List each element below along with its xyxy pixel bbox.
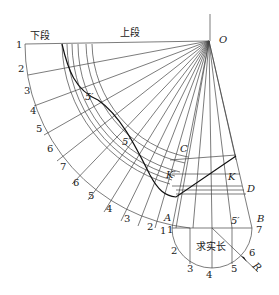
- left-number: 4: [30, 106, 36, 116]
- left-number: 1: [16, 40, 22, 50]
- semicircle-number: 1: [167, 225, 173, 235]
- apex-label: O: [219, 35, 227, 45]
- point-5-prime-label: 5′: [85, 92, 94, 102]
- left-number: 3: [24, 86, 30, 96]
- left-number: 5: [36, 124, 42, 134]
- left-number: 2: [18, 64, 24, 74]
- development-curve: [62, 44, 236, 197]
- semicircle-number: 4: [206, 270, 212, 280]
- point-a-label: A: [164, 213, 171, 223]
- lower-arc-number: 2: [147, 222, 153, 232]
- lower-arc-number: 6: [73, 178, 79, 188]
- semicircle-number: 3: [187, 264, 193, 274]
- semicircle-number: 5: [231, 264, 237, 274]
- lower-arc-number: 4: [106, 204, 112, 214]
- outer-arc: [25, 44, 190, 228]
- semicircle-number: 6: [249, 248, 255, 258]
- left-number: 6: [47, 144, 53, 154]
- lower-arc-number: 3: [124, 214, 130, 224]
- point-d-label: D: [247, 184, 255, 194]
- point-5-prime-label: 5′: [122, 137, 131, 147]
- find-true-length-label: 求实长: [196, 242, 226, 252]
- point-c-label: C: [180, 144, 188, 154]
- semicircle-number: 2: [171, 246, 177, 256]
- point-k-prime-label: K′: [166, 170, 176, 180]
- diagram-lines: [0, 0, 279, 295]
- upper-segment-label: 上段: [120, 28, 140, 38]
- point-b-label: B: [257, 214, 264, 224]
- development-diagram: 下段 上段 O 1 2 3 4 5 6 7 6 5 4 3 2 1 A B C …: [0, 0, 279, 295]
- point-k-label: K: [228, 172, 235, 182]
- lower-segment-label: 下段: [30, 31, 50, 41]
- lower-arc-number: 5: [88, 191, 94, 201]
- arrow-head: [241, 256, 247, 262]
- point-5-prime-label: 5′: [231, 216, 240, 226]
- left-number: 7: [60, 162, 66, 172]
- semicircle-number: 7: [256, 225, 262, 235]
- lower-arc-number: 1: [160, 226, 166, 236]
